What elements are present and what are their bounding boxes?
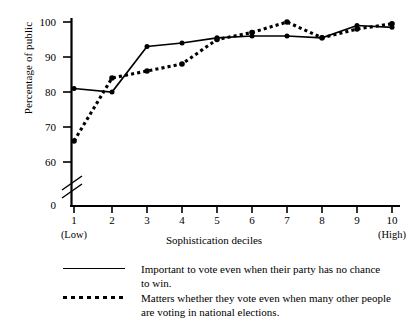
data-point [249, 30, 255, 36]
legend-entry-dotted: Matters whether they vote even when many… [63, 291, 411, 319]
data-point [214, 37, 220, 43]
data-point [319, 35, 325, 41]
data-series-layer [71, 19, 395, 144]
data-point [284, 19, 290, 25]
data-point [354, 26, 360, 32]
legend-solid-line1: Important to vote even when their party … [141, 262, 411, 276]
data-point [180, 41, 185, 46]
data-point [72, 86, 77, 91]
legend-dotted-line2: are voting in national elections. [141, 305, 411, 319]
dotted-line-key [63, 291, 141, 305]
data-point [144, 68, 150, 74]
legend-dotted-line1: Matters whether they vote even when many… [141, 291, 411, 305]
legend-entry-solid-text: Important to vote even when their party … [141, 262, 411, 290]
chart-figure: Percentage of public 100 90 80 70 60 0 1… [0, 0, 414, 332]
data-point [179, 61, 185, 67]
data-point [71, 138, 77, 144]
data-point [109, 75, 115, 81]
legend-entry-solid: Important to vote even when their party … [63, 262, 411, 290]
data-point [110, 90, 115, 95]
series-solid [72, 23, 395, 95]
data-point [285, 34, 290, 39]
data-point [145, 44, 150, 49]
data-point [389, 21, 395, 27]
chart-legend: Important to vote even when their party … [63, 262, 411, 320]
y-axis-ticks [63, 22, 71, 162]
legend-entry-dotted-text: Matters whether they vote even when many… [141, 291, 411, 319]
legend-solid-line2: to win. [141, 276, 411, 290]
solid-line-key [63, 262, 141, 276]
